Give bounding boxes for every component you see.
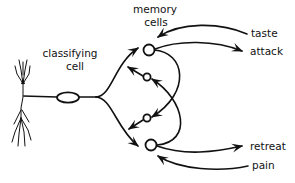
retreat-label: retreat — [250, 140, 286, 152]
memory-cells-label-line2: cells — [144, 16, 168, 28]
memory-cells-label-line1: memory — [133, 3, 177, 15]
classifying-cell-label: classifying cell — [43, 47, 98, 72]
attack-label: attack — [250, 45, 284, 57]
memory-cell-lower-small — [143, 114, 150, 121]
attack-output-arrow — [155, 42, 242, 51]
branch-to-bottom-memory-cell — [96, 97, 138, 146]
pain-label: pain — [252, 159, 275, 171]
retreat-output-arrow — [157, 146, 242, 152]
branch-to-top-memory-cell — [96, 48, 138, 97]
taste-label: taste — [251, 27, 278, 39]
memory-cell-bottom-large — [146, 140, 157, 151]
classifying-neuron — [12, 60, 96, 146]
taste-input-arrow — [158, 25, 247, 37]
pain-input-arrow — [158, 156, 248, 169]
neural-circuit-diagram: memory cells classifying cell taste atta… — [0, 0, 295, 183]
memory-cell-upper-small — [143, 73, 150, 80]
classifying-cell-label-line1: classifying — [43, 47, 98, 59]
memory-cell-top-large — [144, 45, 155, 56]
memory-cells-label: memory cells — [133, 3, 177, 28]
classifying-cell-label-line2: cell — [66, 60, 84, 72]
lower-small-cell-feedback — [129, 120, 143, 129]
upper-small-cell-feedback — [128, 67, 143, 76]
classifying-cell-body — [57, 92, 79, 102]
top-to-lower-small-connection — [152, 50, 180, 117]
bottom-to-upper-small-connection — [152, 79, 181, 145]
